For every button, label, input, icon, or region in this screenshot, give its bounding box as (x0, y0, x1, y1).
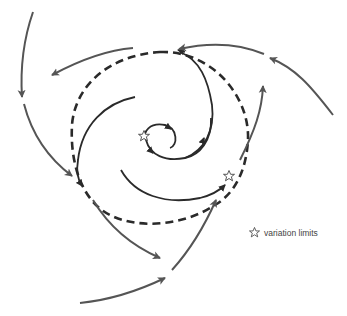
outer-arrow-top-right-2 (179, 45, 264, 54)
outer-arrow-bottom-left (93, 200, 160, 258)
inner-spiral (145, 118, 211, 159)
spiral-arm-top-arrow (178, 50, 185, 52)
star-icon-outer (224, 171, 235, 181)
spiral-arm-left (77, 97, 135, 186)
outer-arrow-right (240, 86, 263, 160)
outer-arrow-top-right-1 (270, 58, 333, 115)
spiral-arm-right (180, 52, 213, 158)
star-icon-inner (139, 131, 150, 141)
spiral-arm-bottom (121, 170, 225, 200)
outer-arrow-left-2 (24, 104, 72, 176)
legend: variation limits (249, 227, 318, 238)
outer-arrow-bottom-right-1 (172, 200, 216, 270)
outer-arrow-bottom (80, 278, 165, 303)
outer-arrow-left-1 (22, 12, 33, 97)
star-icon (249, 227, 260, 238)
limit-cycle-diagram (0, 0, 347, 316)
legend-label: variation limits (264, 228, 318, 238)
